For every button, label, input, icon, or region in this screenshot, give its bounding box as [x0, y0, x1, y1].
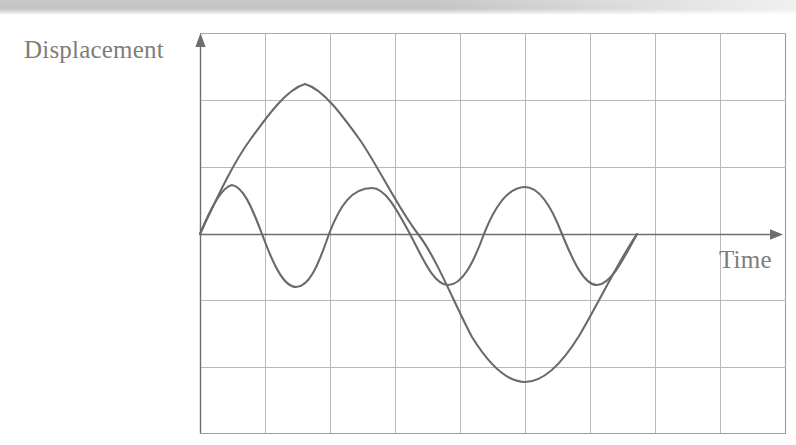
y-axis-label: Displacement [24, 36, 164, 64]
wave-plot [0, 0, 796, 445]
x-axis-label: Time [719, 246, 772, 274]
figure-canvas: Displacement Time [0, 0, 796, 445]
x-axis-with-arrow [200, 229, 783, 240]
